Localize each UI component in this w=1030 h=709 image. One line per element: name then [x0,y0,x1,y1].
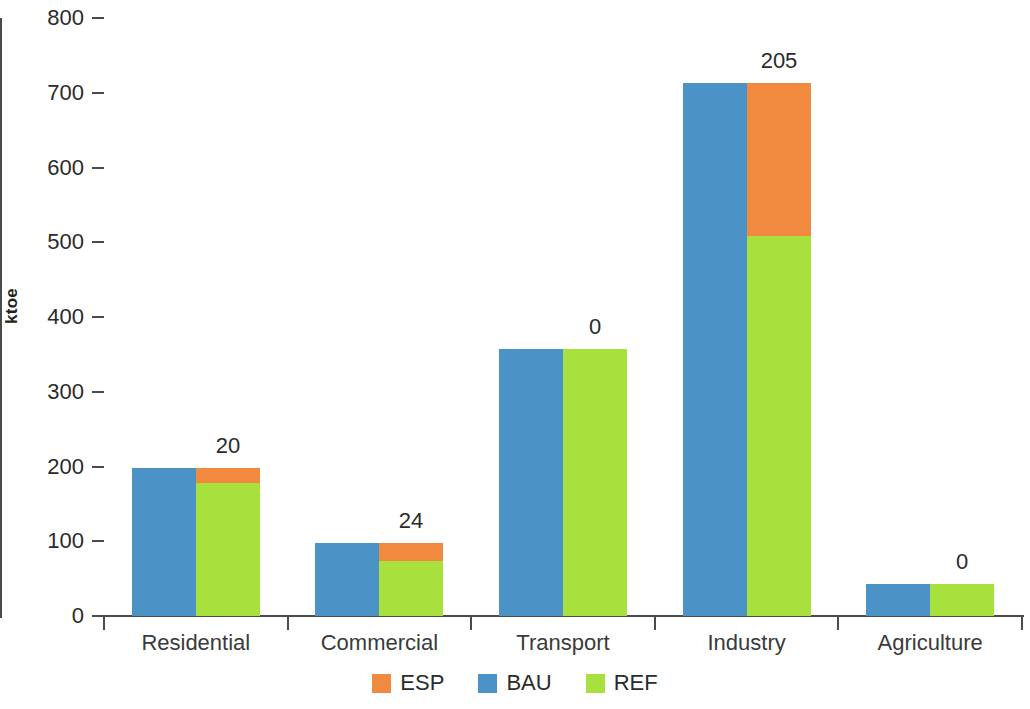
y-axis-tick-label: 800 [47,5,84,31]
legend-swatch-icon [372,674,391,693]
bar-data-label: 24 [349,508,473,534]
legend-item-bau[interactable]: BAU [478,672,551,694]
y-axis-tick-label: 400 [47,304,84,330]
y-axis-tick-mark [92,92,104,94]
bar-segment-ref [563,349,627,616]
x-axis-tick-mark [837,617,839,630]
legend-swatch-icon [586,674,605,693]
bar-segment-esp [747,83,811,236]
legend-item-ref[interactable]: REF [586,672,658,694]
y-axis-title: ktoe [2,276,22,336]
bar-data-label: 20 [166,433,290,459]
y-axis-tick-mark [92,316,104,318]
x-axis-tick-mark [654,617,656,630]
bar-segment-ref [196,483,260,616]
y-axis-tick-mark [92,540,104,542]
bar-segment-esp [196,468,260,483]
y-axis-tick-label: 700 [47,80,84,106]
y-axis-tick-mark [92,466,104,468]
bar-segment-ref [930,584,994,616]
x-axis-category-label: Commercial [288,630,472,656]
bar-segment-ref [379,561,443,616]
y-axis-tick-mark [92,167,104,169]
y-axis-tick-label: 600 [47,155,84,181]
y-axis-tick-label: 100 [47,528,84,554]
bar-chart: ktoe 0100200300400500600700800 202402050… [0,0,1030,709]
y-axis-line [0,18,2,618]
legend-swatch-icon [478,674,497,693]
bar-data-label: 0 [533,314,657,340]
y-axis-tick-label: 0 [72,603,84,629]
y-axis-tick-label: 500 [47,229,84,255]
y-axis-tick-label: 200 [47,454,84,480]
bar-segment-bau [132,468,196,616]
y-axis-tick-mark [92,17,104,19]
legend-label: ESP [400,672,444,694]
bar-data-label: 0 [900,549,1024,575]
chart-legend: ESPBAUREF [0,672,1030,694]
legend-item-esp[interactable]: ESP [372,672,444,694]
x-axis-category-label: Transport [471,630,655,656]
bar-segment-bau [866,584,930,616]
x-axis-tick-mark [287,617,289,630]
x-axis-tick-mark [1021,617,1023,630]
y-axis-tick-mark [92,391,104,393]
y-axis-tick-label: 300 [47,379,84,405]
bar-segment-bau [683,83,747,616]
bar-segment-bau [499,349,563,616]
bar-segment-bau [315,543,379,616]
x-axis-tick-mark [470,617,472,630]
bar-segment-esp [379,543,443,561]
legend-label: BAU [506,672,551,694]
x-axis-category-label: Agriculture [838,630,1022,656]
y-axis-tick-mark [92,241,104,243]
x-axis-category-label: Industry [655,630,839,656]
x-axis-category-label: Residential [104,630,288,656]
bar-data-label: 205 [717,48,841,74]
bar-segment-ref [747,236,811,616]
x-axis-tick-mark [103,617,105,630]
legend-label: REF [614,672,658,694]
